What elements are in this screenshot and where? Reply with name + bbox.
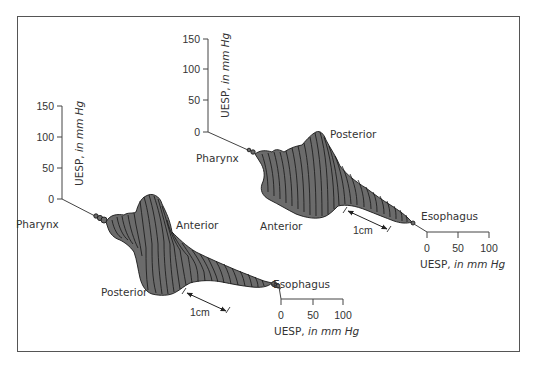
right-pressure-profile	[247, 131, 415, 225]
svg-text:0: 0	[194, 126, 200, 138]
right-horizontal-axis: 0 50 100 UESP, in mm Hg	[420, 232, 506, 270]
tick-150: 150	[36, 100, 54, 112]
left-posterior-label: Posterior	[101, 286, 148, 298]
svg-text:100: 100	[480, 242, 498, 254]
svg-text:100: 100	[334, 309, 352, 321]
svg-text:50: 50	[452, 242, 464, 254]
tick-100: 100	[36, 131, 54, 143]
svg-text:50: 50	[188, 94, 200, 106]
left-pharynx-label: Pharynx	[16, 218, 59, 230]
right-scale-label: 1cm	[353, 224, 373, 236]
left-horizontal-axis-label: UESP, in mm Hg	[274, 325, 360, 337]
left-vertical-axis-label: UESP, in mm Hg	[73, 100, 85, 186]
uesp-diagram: 150 100 50 0 UESP, in mm Hg Pharynx	[0, 0, 533, 371]
left-anterior-label: Anterior	[176, 219, 219, 231]
tick-0: 0	[48, 193, 54, 205]
left-pressure-profile	[94, 194, 280, 295]
left-esophagus-label: Esophagus	[273, 278, 330, 290]
svg-text:50: 50	[307, 309, 319, 321]
right-plot: 150 100 50 0 UESP, in mm Hg Pharynx	[182, 32, 505, 270]
left-vertical-axis: 150 100 50 0 UESP, in mm Hg	[36, 100, 85, 205]
right-vertical-axis-label: UESP, in mm Hg	[219, 32, 231, 118]
svg-text:0: 0	[278, 309, 284, 321]
svg-text:0: 0	[424, 242, 430, 254]
left-horizontal-axis: 0 50 100 UESP, in mm Hg	[274, 299, 360, 337]
left-plot: 150 100 50 0 UESP, in mm Hg Pharynx	[16, 100, 360, 337]
right-horizontal-axis-label: UESP, in mm Hg	[420, 258, 506, 270]
left-scale-bar: 1cm	[182, 288, 230, 318]
left-scale-label: 1cm	[190, 306, 210, 318]
tick-50: 50	[42, 162, 54, 174]
right-vertical-axis: 150 100 50 0 UESP, in mm Hg	[182, 32, 231, 138]
right-esophagus-label: Esophagus	[421, 210, 478, 222]
right-posterior-label: Posterior	[330, 128, 377, 140]
svg-text:100: 100	[182, 63, 200, 75]
right-pharynx-label: Pharynx	[196, 152, 239, 164]
svg-text:150: 150	[182, 33, 200, 45]
right-anterior-label: Anterior	[260, 220, 303, 232]
